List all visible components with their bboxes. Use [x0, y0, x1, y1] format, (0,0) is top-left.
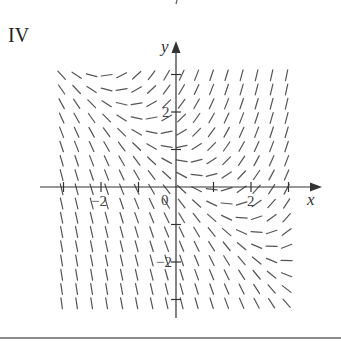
slope-segment [194, 227, 200, 236]
slope-segment [239, 284, 244, 294]
slope-segment [120, 213, 123, 224]
axes: x y 0 −222−2 [40, 37, 322, 318]
slope-segment [147, 144, 157, 149]
slope-segment [195, 255, 199, 265]
slope-segment [119, 156, 125, 166]
slope-segment [165, 227, 169, 237]
slope-segment [61, 269, 63, 280]
slope-segment [101, 75, 112, 77]
slope-segment [267, 215, 276, 222]
slope-segment [150, 284, 153, 295]
slope-segment [266, 230, 276, 234]
slope-segment [251, 216, 261, 220]
slope-segment [269, 185, 275, 194]
slope-segment [193, 128, 201, 136]
slope-segment [59, 85, 65, 94]
slope-segment [135, 255, 138, 266]
slope-segment [76, 241, 78, 252]
slope-segment [76, 255, 78, 266]
slope-segment [161, 146, 172, 148]
slope-segment [161, 131, 172, 133]
slope-segment [270, 127, 274, 138]
y-tick-label: −2 [156, 254, 172, 270]
slope-segment [223, 157, 231, 165]
slope-segment [60, 156, 63, 167]
slope-segment [285, 156, 289, 166]
slope-segment [132, 130, 142, 136]
slope-segment [225, 84, 229, 94]
slope-segment [194, 99, 199, 109]
slope-segment [238, 171, 246, 179]
slope-segment [224, 270, 229, 280]
slope-segment [270, 141, 274, 151]
slope-segment [269, 156, 274, 166]
slope-segment [135, 227, 138, 238]
slope-segment [221, 188, 232, 191]
slope-segment [120, 198, 124, 208]
slope-segment [208, 228, 215, 237]
slope-segment [136, 284, 138, 295]
slope-segment [254, 298, 259, 308]
slope-segment [75, 156, 79, 167]
slope-segment [104, 142, 109, 152]
slope-segment [222, 172, 231, 178]
slope-segment [270, 84, 273, 95]
slope-segment [61, 298, 63, 309]
y-tick-label: 2 [162, 104, 170, 120]
slope-segment [121, 284, 123, 295]
slope-segment [236, 217, 247, 218]
slope-segment [91, 269, 93, 280]
slope-segment [191, 174, 202, 175]
slope-segment [209, 99, 214, 109]
slope-segment [149, 199, 154, 209]
slope-segment [60, 141, 64, 151]
slope-segment [270, 98, 273, 109]
slope-segment [150, 269, 153, 280]
slope-segment [101, 88, 112, 91]
slope-segment [90, 227, 92, 238]
slope-segment [285, 127, 288, 138]
slope-segment [165, 284, 168, 295]
slope-segment [224, 142, 230, 151]
slope-segment [74, 99, 80, 108]
slope-segment [148, 157, 156, 165]
slope-segment [270, 70, 272, 81]
slope-segment [116, 103, 127, 106]
slope-segment [225, 284, 229, 294]
slope-segment [72, 72, 81, 78]
slope-segment [176, 160, 187, 162]
slope-segment [238, 256, 245, 264]
slope-segment [210, 298, 213, 309]
slope-segment [105, 212, 108, 223]
slope-segment [118, 142, 125, 151]
slope-segment [73, 86, 81, 94]
slope-segment [148, 71, 155, 80]
slope-segment [150, 241, 153, 252]
slope-segment [146, 131, 157, 133]
slope-segment [193, 114, 199, 123]
slope-segment [103, 128, 109, 137]
y-axis-arrow-icon [172, 41, 181, 53]
slope-segment [91, 298, 93, 309]
slope-segment [61, 241, 63, 252]
slope-segment [118, 128, 126, 136]
slope-segment [194, 241, 199, 251]
slope-segment [208, 128, 214, 137]
slope-segment [206, 189, 217, 190]
slope-segment [254, 171, 260, 180]
slope-segment [116, 89, 127, 91]
slope-segment [194, 85, 199, 95]
slope-segment [102, 101, 111, 107]
slope-segment [286, 70, 288, 81]
slope-segment [224, 113, 229, 123]
slope-segment [151, 298, 153, 309]
slope-segment [193, 200, 201, 207]
slope-segment [240, 298, 244, 308]
top-mark [176, 0, 177, 4]
slope-segment [88, 100, 96, 108]
slope-segment [135, 269, 137, 280]
slope-segment [191, 159, 202, 162]
slope-segment [147, 101, 157, 107]
slope-segment [133, 72, 141, 80]
slope-segment [61, 212, 63, 223]
